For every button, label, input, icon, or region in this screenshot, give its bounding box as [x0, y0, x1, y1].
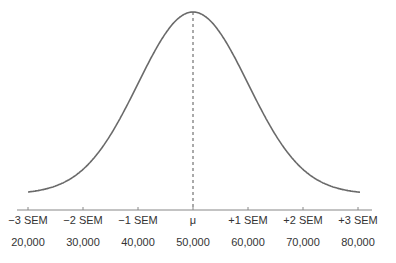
value-tick-label: 50,000	[176, 236, 210, 248]
sem-tick-label: −1 SEM	[118, 214, 157, 226]
sem-tick-label: −3 SEM	[8, 214, 47, 226]
value-tick-label: 60,000	[231, 236, 265, 248]
sem-tick-label: +1 SEM	[228, 214, 267, 226]
value-tick-label: 80,000	[341, 236, 375, 248]
value-tick-label: 20,000	[11, 236, 45, 248]
sem-tick-label: −2 SEM	[63, 214, 102, 226]
normal-distribution-plot	[0, 0, 396, 263]
sem-tick-label: μ	[190, 214, 196, 226]
sem-tick-label: +2 SEM	[283, 214, 322, 226]
value-tick-label: 30,000	[66, 236, 100, 248]
sem-tick-label: +3 SEM	[338, 214, 377, 226]
bell-curve	[28, 12, 360, 192]
value-tick-label: 70,000	[286, 236, 320, 248]
value-tick-label: 40,000	[121, 236, 155, 248]
